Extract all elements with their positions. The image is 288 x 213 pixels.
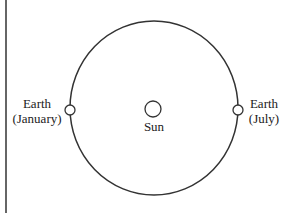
earth-january-label-line2: (January) [6, 111, 68, 126]
orbit-diagram: Sun Earth (January) Earth (July) [0, 0, 288, 213]
sun-label: Sun [139, 119, 169, 134]
earth-january-label-line1: Earth [6, 96, 68, 111]
earth-july-label-line1: Earth [244, 96, 284, 111]
sun-circle-icon [145, 101, 161, 117]
earth-january-label: Earth (January) [6, 96, 68, 126]
earth-july-circle-icon [233, 105, 243, 115]
earth-july-label: Earth (July) [244, 96, 284, 126]
earth-july-label-line2: (July) [244, 111, 284, 126]
